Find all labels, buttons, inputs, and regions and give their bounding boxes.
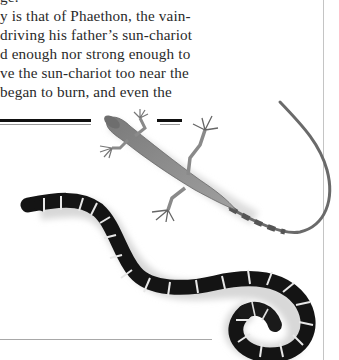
snake-icon	[24, 196, 313, 357]
illustration-layer	[0, 0, 339, 360]
lizard-icon	[100, 102, 330, 233]
